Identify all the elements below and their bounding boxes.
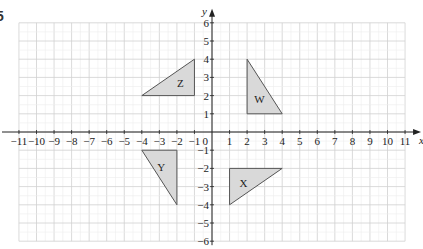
y-tick-label: 3 (204, 71, 210, 83)
y-tick-label: −6 (197, 235, 209, 247)
x-tick-label: 6 (315, 135, 321, 147)
x-tick-label: 1 (227, 135, 233, 147)
x-tick-label: −6 (101, 135, 113, 147)
y-tick-label: 5 (204, 35, 210, 47)
y-tick-label: −2 (197, 162, 209, 174)
y-tick-label: −4 (197, 199, 209, 211)
x-tick-label: −8 (66, 135, 78, 147)
x-tick-label: −9 (48, 135, 60, 147)
x-tick-label: −11 (11, 135, 28, 147)
x-tick-label: −3 (153, 135, 165, 147)
x-tick-label: 8 (350, 135, 356, 147)
x-tick-label: 7 (332, 135, 338, 147)
coordinate-grid: ZWYX −11−10−9−8−7−6−5−4−3−2−112345678910… (0, 0, 423, 249)
x-tick-label: 4 (279, 135, 285, 147)
y-tick-label: 2 (204, 90, 210, 102)
x-tick-label: −7 (83, 135, 95, 147)
x-tick-label: 9 (367, 135, 373, 147)
x-tick-label: −2 (171, 135, 183, 147)
x-tick-label: −5 (118, 135, 130, 147)
triangle-label-x: X (240, 177, 248, 189)
y-axis-label: y (201, 5, 207, 17)
triangle-label-w: W (254, 93, 265, 105)
y-tick-label: −3 (197, 181, 209, 193)
x-tick-label: 11 (400, 135, 411, 147)
x-axis-label: x (418, 134, 423, 146)
x-tick-label: −10 (28, 135, 46, 147)
x-tick-label: 2 (244, 135, 250, 147)
y-axis-arrow-icon (209, 9, 215, 17)
origin-label: 0 (203, 135, 209, 147)
axes (2, 9, 421, 245)
x-tick-label: 5 (297, 135, 303, 147)
y-tick-label: 1 (204, 108, 210, 120)
y-tick-label: −5 (197, 217, 209, 229)
x-tick-label: 10 (382, 135, 394, 147)
x-tick-label: 3 (262, 135, 268, 147)
y-tick-label: 4 (204, 53, 210, 65)
x-tick-label: −4 (136, 135, 148, 147)
triangle-label-z: Z (177, 77, 184, 89)
y-tick-label: 6 (204, 17, 210, 29)
triangle-label-y: Y (157, 161, 165, 173)
